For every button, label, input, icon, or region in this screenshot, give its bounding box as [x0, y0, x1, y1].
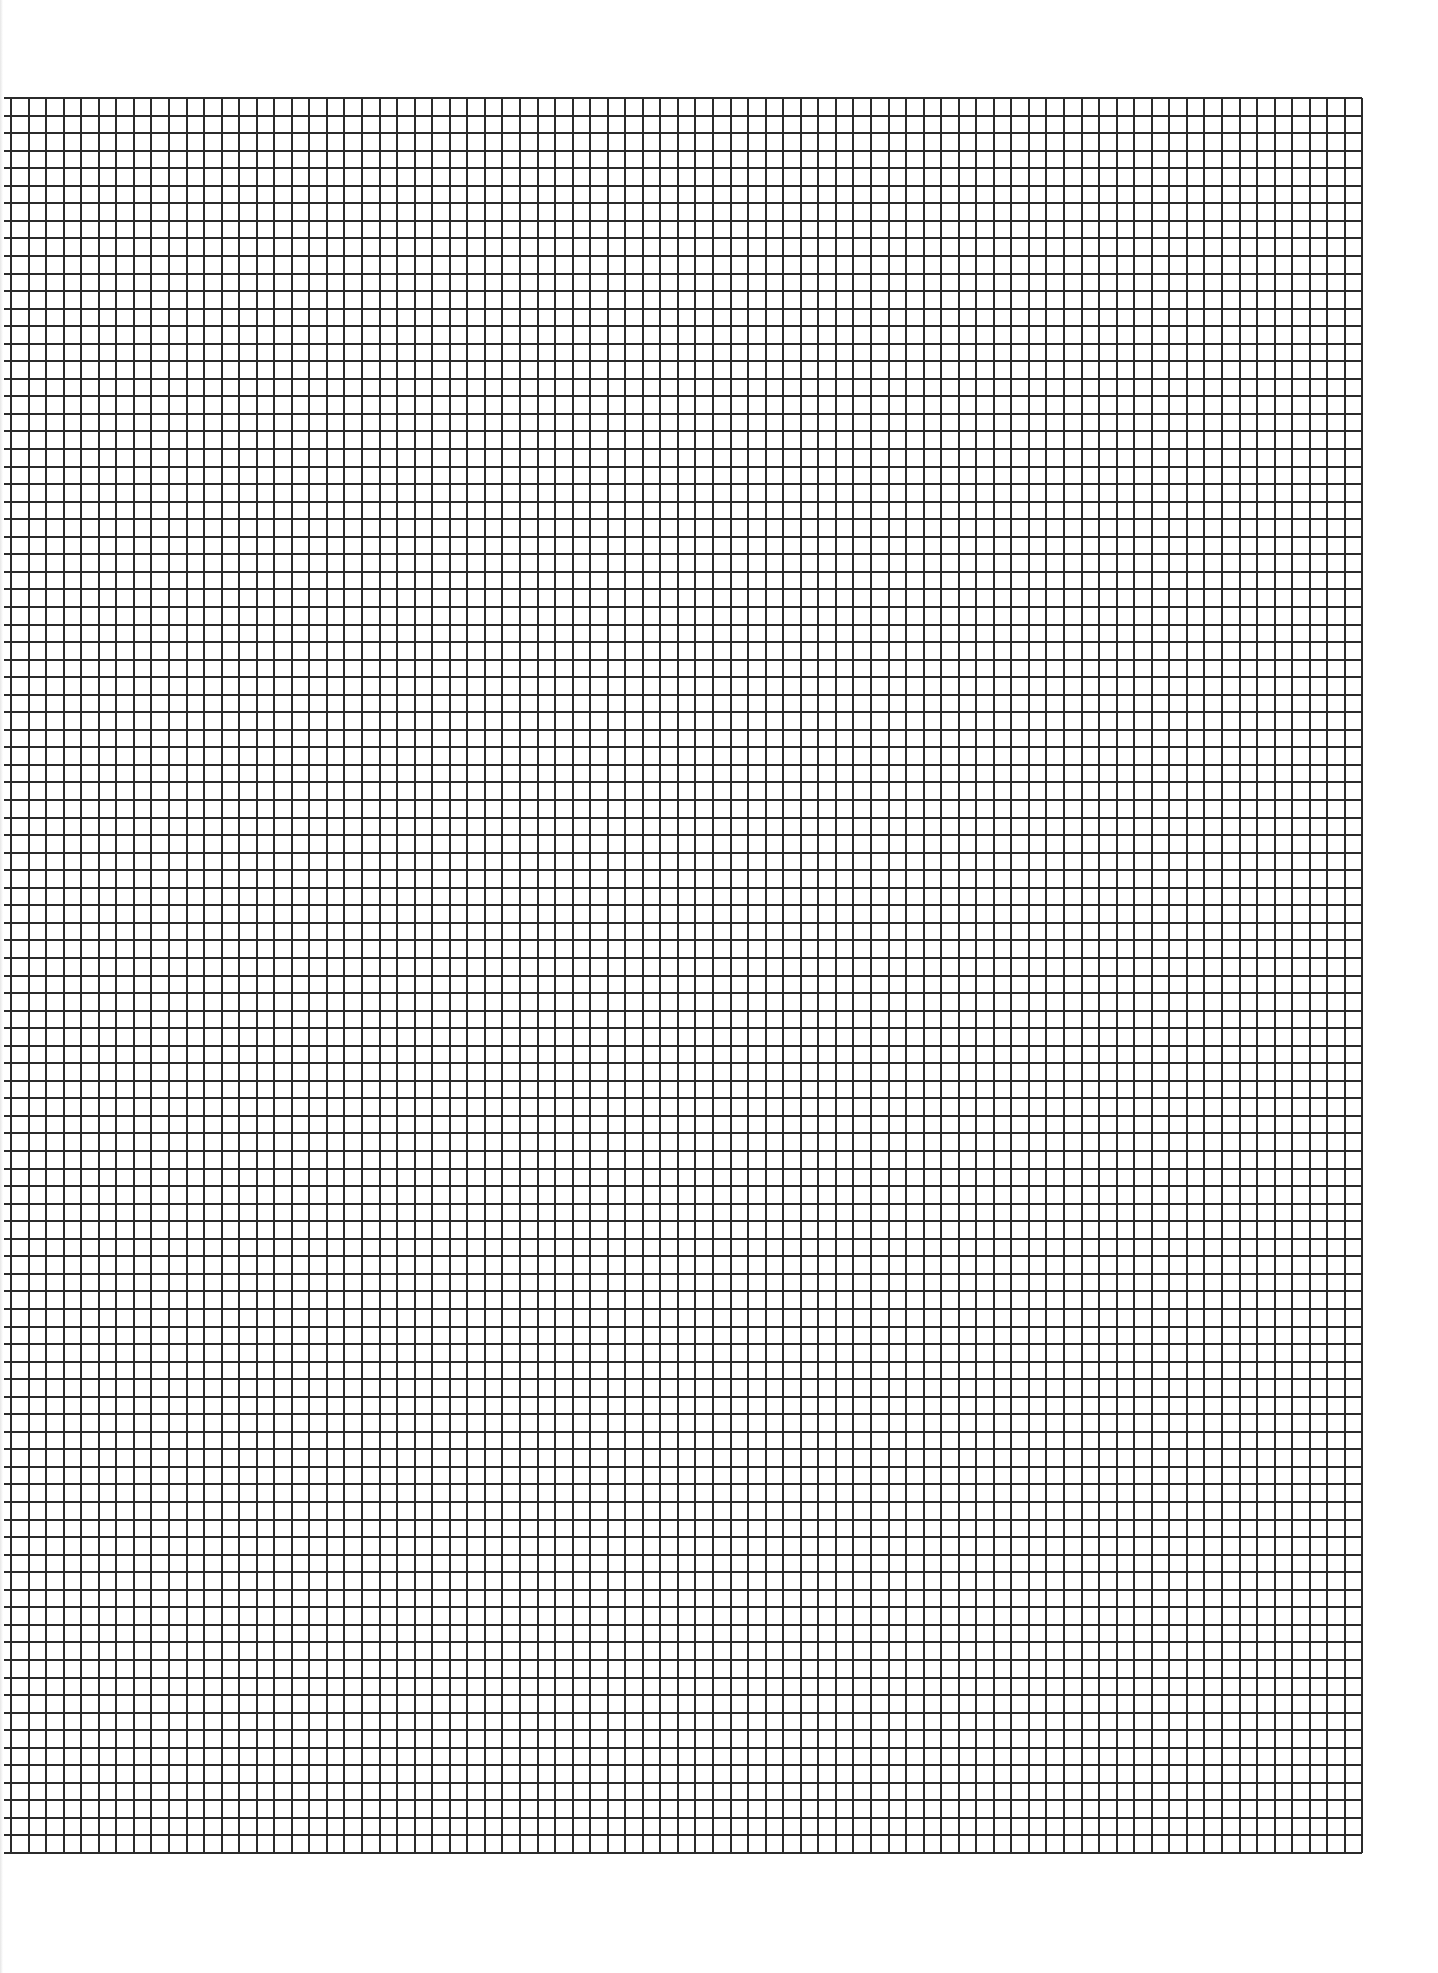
grid-container — [4, 97, 1364, 1854]
scan-edge-shadow — [0, 0, 3, 1973]
graph-paper-page — [0, 0, 1438, 1973]
square-grid — [4, 97, 1364, 1854]
